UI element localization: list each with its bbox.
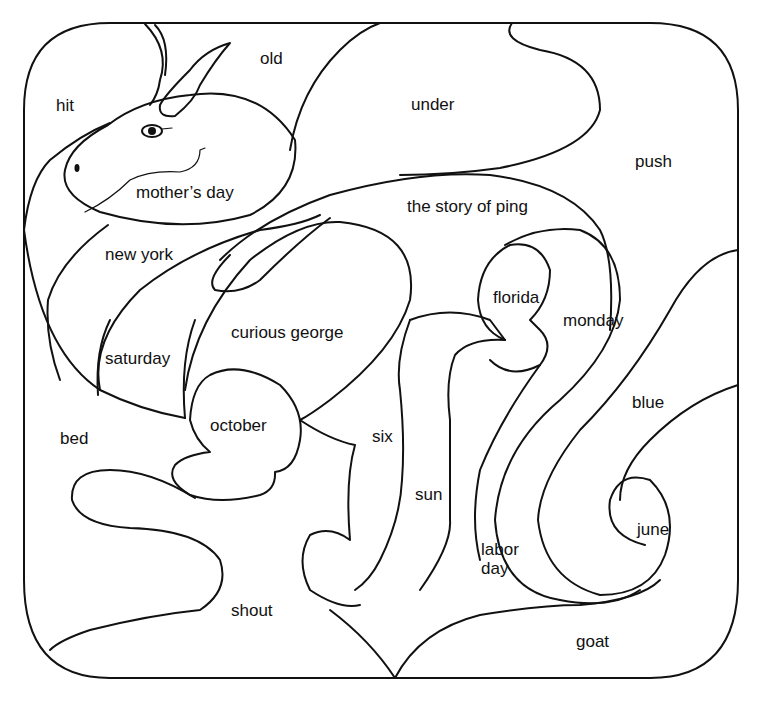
- word-blue: blue: [632, 393, 664, 412]
- word-the-story-of-ping: the story of ping: [407, 197, 528, 216]
- word-saturday: saturday: [105, 349, 170, 368]
- word-monday: monday: [563, 311, 623, 330]
- word-six: six: [372, 427, 393, 446]
- word-shout: shout: [231, 601, 273, 620]
- word-june: june: [637, 520, 669, 539]
- word-sun: sun: [415, 485, 442, 504]
- word-under: under: [411, 95, 454, 114]
- word-curious-george: curious george: [231, 323, 343, 342]
- word-push: push: [635, 152, 672, 171]
- word-bed: bed: [60, 429, 88, 448]
- word-october: october: [210, 416, 267, 435]
- word-hit: hit: [56, 96, 74, 115]
- curious-george-shape: [185, 222, 411, 420]
- word-new-york: new york: [105, 245, 173, 264]
- word-old: old: [260, 49, 283, 68]
- word-mothers-day: mother’s day: [136, 183, 234, 202]
- word-goat: goat: [576, 632, 609, 651]
- word-florida: florida: [493, 288, 539, 307]
- word-labor-day: labor day: [481, 540, 519, 578]
